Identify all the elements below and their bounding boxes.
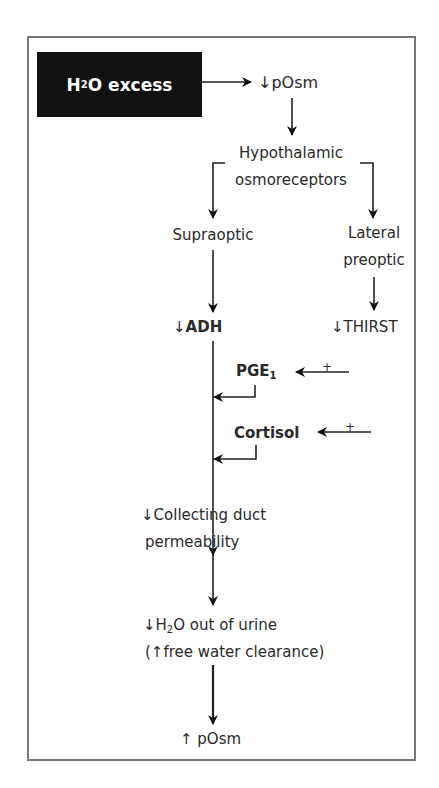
adh-label: ADH	[186, 318, 223, 336]
cortisol-node: Cortisol	[234, 424, 299, 442]
posm-up-node: ↑ pOsm	[180, 730, 241, 748]
free-water-clearance-label: free water clearance)	[163, 643, 324, 661]
adh-node: ↓ADH	[173, 318, 222, 336]
thirst-label: THIRST	[344, 318, 398, 336]
cortisol-plus-sign: +	[345, 418, 355, 436]
down-arrow-icon: ↓	[143, 616, 156, 634]
supraoptic-label: Supraoptic	[173, 226, 254, 244]
posm-up-label: pOsm	[193, 730, 242, 748]
flow-arrows	[0, 0, 439, 788]
thirst-node: ↓THIRST	[331, 318, 398, 336]
h-label: H	[156, 616, 167, 634]
up-arrow-icon: ↑	[180, 730, 193, 748]
pge-label: PGE	[236, 362, 270, 380]
hypothalamic-label: Hypothalamic	[239, 144, 343, 162]
pge1-node: PGE1	[236, 362, 277, 380]
collecting-duct-line1: ↓Collecting duct	[141, 506, 266, 524]
down-arrow-icon: ↓	[173, 318, 186, 336]
posm-down-node: ↓pOsm	[258, 74, 318, 92]
down-arrow-icon: ↓	[141, 506, 154, 524]
up-arrow-icon: ↑	[151, 643, 164, 661]
out-of-urine-label: O out of urine	[173, 616, 277, 634]
pge-sub: 1	[270, 370, 277, 381]
h2o-urine-line1: ↓H2O out of urine	[143, 616, 277, 634]
down-arrow-icon: ↓	[331, 318, 344, 336]
permeability-label: permeability	[145, 533, 239, 551]
lateral-label: Lateral	[348, 224, 400, 242]
osmoreceptors-label: osmoreceptors	[235, 171, 347, 189]
preoptic-label: preoptic	[343, 251, 405, 269]
posm-label: pOsm	[271, 73, 318, 92]
down-arrow-icon: ↓	[258, 73, 271, 92]
collecting-duct-label: Collecting duct	[154, 506, 266, 524]
pge-plus-sign: +	[322, 358, 332, 376]
free-water-clearance-line: (↑free water clearance)	[145, 643, 324, 661]
